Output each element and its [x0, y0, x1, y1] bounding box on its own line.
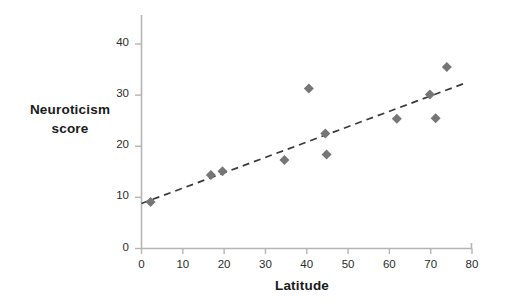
x-tick-label: 20	[209, 258, 239, 270]
y-axis-title-line2: score	[14, 119, 126, 138]
data-point-marker	[392, 114, 402, 124]
x-tick-label: 40	[292, 258, 322, 270]
y-tick-label: 30	[105, 87, 129, 99]
chart-container: Neuroticism score Latitude 0102030400102…	[0, 0, 505, 307]
y-tick-label: 0	[105, 241, 129, 253]
trend-line	[142, 83, 466, 204]
data-point-marker	[279, 155, 289, 165]
x-tick-label: 80	[457, 258, 487, 270]
data-point-marker	[431, 113, 441, 123]
data-point-marker	[206, 170, 216, 180]
y-tick-label: 10	[105, 189, 129, 201]
x-tick-label: 50	[333, 258, 363, 270]
x-tick-label: 0	[127, 258, 157, 270]
x-tick-label: 30	[250, 258, 280, 270]
x-tick-label: 10	[168, 258, 198, 270]
y-axis-title-line1: Neuroticism	[14, 100, 126, 119]
data-point-marker	[442, 62, 452, 72]
x-axis-ticks	[142, 249, 473, 255]
x-tick-label: 60	[374, 258, 404, 270]
x-tick-label: 70	[416, 258, 446, 270]
y-axis-ticks	[135, 44, 142, 249]
y-axis-title: Neuroticism score	[14, 100, 126, 138]
data-point-marker	[217, 166, 227, 176]
trend-line-segment	[142, 83, 466, 204]
x-axis-title: Latitude	[252, 278, 352, 293]
y-tick-label: 40	[105, 36, 129, 48]
data-point-marker	[322, 149, 332, 159]
y-tick-label: 20	[105, 138, 129, 150]
data-point-marker	[304, 83, 314, 93]
